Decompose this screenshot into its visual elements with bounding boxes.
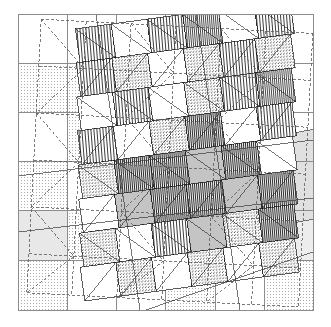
figure-root: · · · · · <box>0 0 331 327</box>
rotated-mesh-fills <box>61 0 315 301</box>
mesh-figure-canvas <box>0 0 331 327</box>
